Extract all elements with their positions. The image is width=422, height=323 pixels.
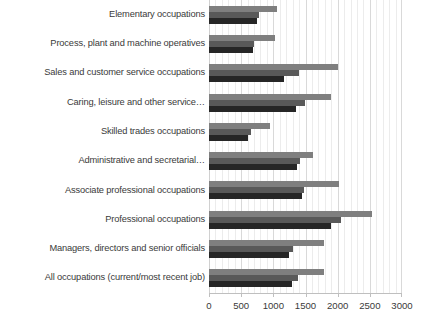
category-label: Professional occupations <box>0 205 209 234</box>
tickmark <box>370 294 371 297</box>
tickmark <box>401 294 402 297</box>
category-axis-labels: Elementary occupationsProcess, plant and… <box>0 0 209 293</box>
tickmark <box>273 294 274 297</box>
bar[interactable] <box>209 223 331 229</box>
x-tick-label: 0 <box>206 300 211 311</box>
x-tick-label: 2000 <box>327 300 348 311</box>
tickmark <box>241 294 242 297</box>
bar-group-bars <box>209 152 402 170</box>
bar[interactable] <box>209 252 289 258</box>
x-tick-label: 500 <box>233 300 249 311</box>
x-tick-label: 1000 <box>263 300 284 311</box>
tickmark <box>209 294 210 297</box>
category-label: Sales and customer service occupations <box>0 59 209 88</box>
x-tick-label: 2500 <box>359 300 380 311</box>
category-label: Associate professional occupations <box>0 176 209 205</box>
bar-group <box>209 205 402 234</box>
bar-group-bars <box>209 64 402 82</box>
bar[interactable] <box>209 164 297 170</box>
bar[interactable] <box>209 135 248 141</box>
bar-group <box>209 176 402 205</box>
bar[interactable] <box>209 106 296 112</box>
category-label: All occupations (current/most recent job… <box>0 264 209 293</box>
tickmark <box>306 294 307 297</box>
bar-group <box>209 59 402 88</box>
bar-group-bars <box>209 211 402 229</box>
bar-group-bars <box>209 6 402 24</box>
tickmark <box>338 294 339 297</box>
bar-group <box>209 264 402 293</box>
bar[interactable] <box>209 281 292 287</box>
category-label: Skilled trades occupations <box>0 117 209 146</box>
bar-group-bars <box>209 94 402 112</box>
bar-group-bars <box>209 240 402 258</box>
bar-group <box>209 88 402 117</box>
bar[interactable] <box>209 76 284 82</box>
bar-group-bars <box>209 123 402 141</box>
category-label: Caring, leisure and other service… <box>0 88 209 117</box>
bar[interactable] <box>209 193 302 199</box>
bar-group <box>209 0 402 29</box>
x-tick-label: 1500 <box>295 300 316 311</box>
x-axis-tick-labels: 050010001500200025003000 <box>0 300 422 316</box>
plot-area <box>209 0 402 293</box>
category-label: Managers, directors and senior officials <box>0 234 209 263</box>
bar-group-bars <box>209 181 402 199</box>
bar-chart: Elementary occupationsProcess, plant and… <box>0 0 422 323</box>
bar-group-bars <box>209 269 402 287</box>
x-axis-tickmarks <box>209 294 402 298</box>
bar-group <box>209 29 402 58</box>
bar-group <box>209 117 402 146</box>
bar[interactable] <box>209 18 257 24</box>
bar-rows <box>209 0 402 293</box>
category-label: Administrative and secretarial… <box>0 146 209 175</box>
bar[interactable] <box>209 47 253 53</box>
category-label: Process, plant and machine operatives <box>0 29 209 58</box>
bar-group-bars <box>209 35 402 53</box>
bar-group <box>209 146 402 175</box>
category-label: Elementary occupations <box>0 0 209 29</box>
x-tick-label: 3000 <box>391 300 412 311</box>
bar-group <box>209 234 402 263</box>
